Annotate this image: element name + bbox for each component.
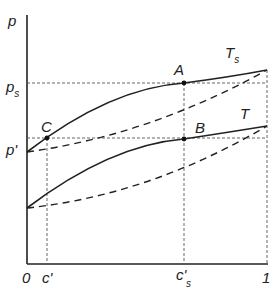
ts-solid-curve — [27, 70, 267, 152]
label-a: A — [173, 61, 184, 78]
y-axis-label: p — [7, 12, 16, 29]
point-c — [45, 136, 50, 141]
ts-dashed-curve — [27, 70, 267, 152]
point-a — [182, 81, 187, 86]
label-b: B — [195, 119, 205, 136]
origin-label: 0 — [22, 269, 31, 286]
cs-label: c's — [176, 266, 191, 289]
one-label: 1 — [262, 269, 270, 286]
p-prime-label: p' — [5, 141, 18, 158]
label-c: C — [41, 118, 52, 135]
ps-label: ps — [5, 78, 19, 99]
t-label: T — [240, 105, 251, 122]
ts-label: Ts — [225, 44, 239, 65]
phase-diagram: p ps p' 0 c' c's 1 A B C Ts T — [0, 0, 277, 295]
c-prime-label: c' — [42, 269, 54, 286]
guide-lines — [27, 70, 267, 264]
point-b — [182, 137, 187, 142]
